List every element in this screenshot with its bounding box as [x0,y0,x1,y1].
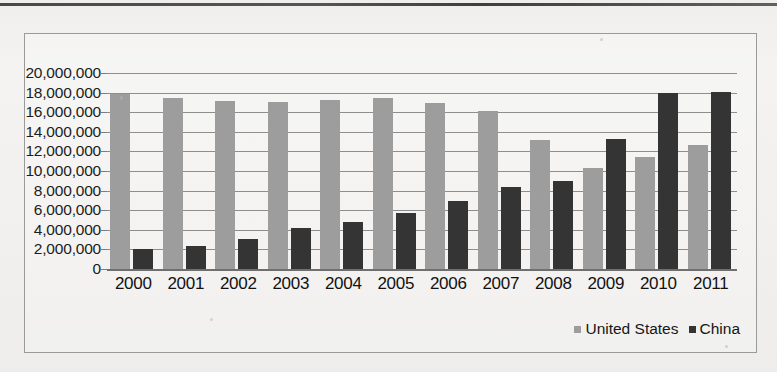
x-axis-label-2007: 2007 [475,274,528,294]
y-axis-tick-label: 20,000,000 [25,64,101,82]
bar-group [317,73,370,269]
bar-group [160,73,213,269]
x-axis-label-2008: 2008 [527,274,580,294]
bar-united-states-2004[interactable] [320,100,340,269]
bar-china-2009[interactable] [606,139,626,269]
bar-china-2002[interactable] [238,239,258,269]
scan-speckle [600,38,603,41]
x-axis-label-2010: 2010 [632,274,685,294]
chart-frame: 02,000,0004,000,0006,000,0008,000,00010,… [24,33,757,353]
x-axis-label-2004: 2004 [317,274,370,294]
bar-group [107,73,160,269]
legend-label: China [700,320,741,338]
y-axis-tick-label: 2,000,000 [34,240,101,258]
legend-item-united-states[interactable]: United States [574,320,678,338]
y-axis-tick-label: 16,000,000 [25,103,101,121]
bar-group [475,73,528,269]
x-axis-label-2001: 2001 [160,274,213,294]
y-axis-tick-label: 0 [93,260,101,278]
legend-swatch-icon [689,326,696,333]
bar-china-2004[interactable] [343,222,363,269]
bar-group [527,73,580,269]
scan-speckle [725,345,728,348]
x-axis-labels: 2000200120022003200420052006200720082009… [107,274,737,300]
bar-group [212,73,265,269]
bar-group [422,73,475,269]
x-axis-label-2011: 2011 [685,274,738,294]
y-axis-tick [101,269,107,270]
x-axis-label-2006: 2006 [422,274,475,294]
gridline [107,269,737,271]
y-axis-tick-label: 4,000,000 [34,221,101,239]
y-axis-tick-label: 12,000,000 [25,142,101,160]
legend-label: United States [585,320,678,338]
y-axis-tick-label: 8,000,000 [34,182,101,200]
bar-group [632,73,685,269]
scanned-page: 02,000,0004,000,0006,000,0008,000,00010,… [0,0,777,372]
scan-speckle [210,318,213,321]
bar-china-2010[interactable] [658,93,678,269]
bar-china-2003[interactable] [291,228,311,269]
bar-china-2006[interactable] [448,201,468,269]
bar-china-2011[interactable] [711,92,731,269]
bar-united-states-2005[interactable] [373,98,393,269]
scan-edge-artifact [0,3,777,6]
bar-china-2008[interactable] [553,181,573,269]
x-axis-label-2009: 2009 [580,274,633,294]
bar-china-2005[interactable] [396,213,416,269]
legend-item-china[interactable]: China [689,320,741,338]
y-axis-tick-label: 14,000,000 [25,123,101,141]
bar-united-states-2010[interactable] [635,157,655,269]
chart-legend: United StatesChina [574,320,740,338]
bar-united-states-2006[interactable] [425,103,445,269]
legend-swatch-icon [574,326,581,333]
bar-group [265,73,318,269]
x-axis-label-2005: 2005 [370,274,423,294]
y-axis-tick-label: 6,000,000 [34,201,101,219]
bar-united-states-2001[interactable] [163,98,183,270]
x-axis-label-2002: 2002 [212,274,265,294]
bar-group [685,73,738,269]
plot-area [107,73,737,269]
y-axis-tick-label: 18,000,000 [25,84,101,102]
bar-united-states-2000[interactable] [110,94,130,269]
bar-group [370,73,423,269]
bar-united-states-2008[interactable] [530,140,550,269]
x-axis-label-2000: 2000 [107,274,160,294]
bar-united-states-2007[interactable] [478,111,498,269]
scan-speckle [120,96,123,100]
bar-china-2001[interactable] [186,246,206,269]
y-axis-tick-label: 10,000,000 [25,162,101,180]
bar-china-2000[interactable] [133,249,153,269]
bar-united-states-2009[interactable] [583,168,603,269]
bar-united-states-2002[interactable] [215,101,235,269]
bar-china-2007[interactable] [501,187,521,269]
bar-united-states-2003[interactable] [268,102,288,269]
x-axis-label-2003: 2003 [265,274,318,294]
bar-group [580,73,633,269]
bar-united-states-2011[interactable] [688,145,708,269]
